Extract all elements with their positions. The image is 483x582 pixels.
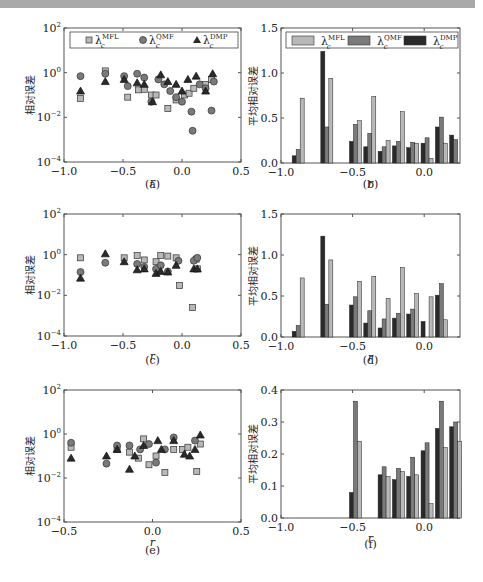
bar-qmf — [325, 127, 329, 163]
panel-caption: (e) — [145, 544, 160, 557]
tick-label: 1.0 — [261, 67, 279, 80]
marker-circle — [102, 70, 109, 77]
bar-qmf — [296, 150, 300, 164]
bar-qmf — [382, 147, 386, 163]
chart-panel-c: −1.0−0.50.00.510−410−2100102r相对误差(c) — [24, 207, 250, 367]
tick-label: 0.4 — [261, 384, 279, 397]
marker-square — [194, 468, 200, 474]
tick-label: 0.5 — [232, 339, 250, 352]
legend-circle-icon — [140, 37, 147, 44]
tick-label: 0.3 — [261, 416, 279, 429]
bar-dmp — [435, 127, 439, 163]
y-axis-label: 平均相对误差 — [247, 424, 259, 484]
tick-label: 1.5 — [261, 22, 279, 35]
bar-dmp — [378, 475, 382, 518]
marker-square — [141, 257, 147, 263]
marker-square — [158, 253, 164, 259]
bar-dmp — [407, 148, 411, 163]
marker-triangle — [77, 87, 85, 94]
marker-square — [162, 469, 168, 475]
marker-square — [153, 453, 159, 459]
bar-qmf — [439, 401, 443, 518]
tick-label: 102 — [43, 207, 61, 221]
marker-square — [135, 87, 141, 93]
bar-mfl — [429, 297, 433, 337]
bar-qmf — [425, 138, 429, 163]
bar-mfl — [429, 504, 433, 518]
bar-mfl — [357, 121, 361, 163]
tick-label: 0.2 — [261, 448, 279, 461]
bar-qmf — [454, 140, 458, 163]
bar-dmp — [349, 492, 353, 518]
bar-mfl — [386, 141, 390, 164]
tick-label: −0.5 — [51, 525, 78, 538]
marker-triangle — [184, 75, 192, 82]
tick-label: 0.0 — [415, 521, 433, 534]
tick-label: 0.5 — [232, 165, 250, 178]
bar-mfl — [400, 472, 404, 518]
marker-circle — [77, 73, 84, 80]
tick-label: 10−2 — [37, 288, 61, 302]
tick-label: 10−2 — [37, 110, 61, 124]
tick-label: 102 — [43, 21, 61, 35]
bar-qmf — [411, 309, 415, 337]
legend-swatch — [404, 36, 426, 45]
bar-mfl — [443, 143, 447, 163]
bar-mfl — [415, 475, 419, 518]
tick-label: 0.0 — [261, 512, 279, 525]
bar-qmf — [368, 133, 372, 163]
bar-qmf — [382, 319, 386, 337]
tick-label: 100 — [43, 66, 61, 80]
bar-qmf — [368, 311, 372, 337]
marker-square — [78, 255, 84, 261]
tick-label: −0.5 — [110, 339, 137, 352]
marker-circle — [102, 259, 109, 266]
tick-label: 102 — [43, 383, 61, 397]
tick-label: 0.5 — [261, 112, 279, 125]
bar-qmf — [411, 142, 415, 163]
marker-square — [134, 253, 140, 259]
bar-dmp — [321, 236, 325, 337]
marker-square — [190, 305, 196, 311]
panel-caption: (b) — [363, 178, 379, 191]
marker-triangle — [140, 80, 148, 87]
marker-circle — [208, 107, 215, 114]
bar-mfl — [357, 441, 361, 518]
bar-qmf — [439, 117, 443, 163]
chart-panel-e: −0.50.00.510−410−2100102r相对误差(e) — [24, 383, 250, 557]
bar-qmf — [396, 313, 400, 337]
tick-label: 100 — [43, 248, 61, 262]
bar-dmp — [321, 51, 325, 163]
marker-triangle — [125, 465, 133, 472]
marker-square — [165, 105, 171, 111]
bar-qmf — [396, 468, 400, 518]
marker-square — [191, 85, 197, 91]
marker-square — [177, 283, 183, 289]
marker-triangle — [133, 79, 141, 86]
bar-dmp — [407, 314, 411, 337]
bar-qmf — [325, 304, 329, 337]
y-axis-label: 平均相对误差 — [247, 66, 259, 126]
bar-dmp — [435, 295, 439, 337]
y-axis-label: 平均相对误差 — [247, 246, 259, 306]
bar-dmp — [407, 476, 411, 518]
tick-label: 10−2 — [37, 471, 61, 485]
marker-circle — [210, 78, 217, 85]
panel-caption: (c) — [145, 354, 160, 367]
bar-qmf — [425, 443, 429, 518]
marker-triangle — [192, 72, 200, 79]
tick-label: 0.1 — [261, 480, 279, 493]
bar-dmp — [349, 305, 353, 337]
bar-mfl — [386, 298, 390, 337]
bar-qmf — [396, 141, 400, 163]
bar-mfl — [300, 278, 304, 337]
tick-label: −1.0 — [51, 165, 78, 178]
legend-b: λMFLcλQMFcλDMPc — [286, 32, 458, 51]
panel-caption: (a) — [145, 178, 160, 191]
bar-dmp — [450, 135, 454, 163]
marker-square — [126, 449, 132, 455]
tick-label: 1.0 — [261, 249, 279, 262]
bar-dmp — [392, 146, 396, 163]
bar-dmp — [435, 428, 439, 518]
bar-qmf — [439, 284, 443, 337]
